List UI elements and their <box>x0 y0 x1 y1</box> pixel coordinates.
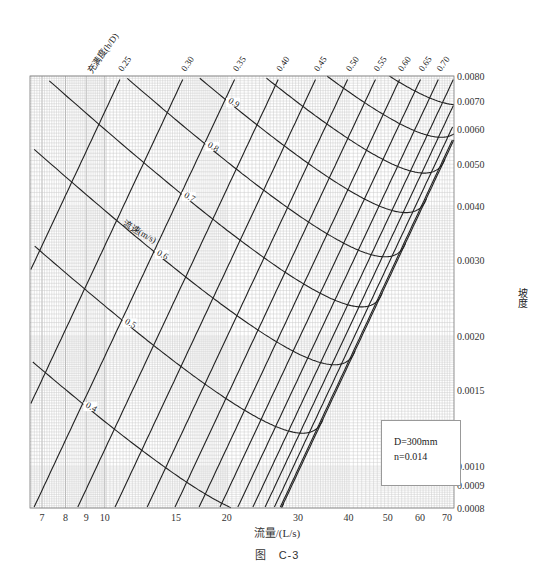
diameter-label: D=300mm <box>394 435 437 449</box>
y-tick-label: 0.0080 <box>457 71 485 82</box>
x-axis-ticks: 7891015203040506070 <box>40 512 453 523</box>
y-tick-label: 0.0040 <box>457 201 485 212</box>
x-tick-label: 50 <box>383 512 393 523</box>
y-tick-label: 0.0030 <box>457 255 485 266</box>
nomograph-chart: 0.250.300.350.400.450.500.550.600.650.70… <box>0 0 554 580</box>
fill-ratio-label: 0.35 <box>231 54 249 73</box>
velocity-label: 0.8 <box>206 140 221 155</box>
fill-ratio-label: 0.55 <box>372 54 390 73</box>
x-axis-label: 流量/(L/s) <box>0 524 554 540</box>
y-tick-label: 0.0070 <box>457 96 485 107</box>
fill-ratio-label: 0.60 <box>396 54 414 73</box>
x-tick-label: 70 <box>442 512 452 523</box>
fill-ratio-label: 0.25 <box>116 54 134 73</box>
fill-ratio-label: 0.65 <box>417 54 435 73</box>
fill-ratio-label: 0.40 <box>274 54 292 73</box>
y-tick-label: 0.0050 <box>457 159 485 170</box>
x-tick-label: 7 <box>40 512 45 523</box>
x-tick-label: 60 <box>415 512 425 523</box>
figure-caption: 图 C-3 <box>0 546 554 562</box>
x-tick-label: 30 <box>293 512 303 523</box>
y-tick-label: 0.0015 <box>457 385 485 396</box>
y-tick-label: 0.0020 <box>457 331 485 342</box>
velocity-label: 0.7 <box>182 190 197 205</box>
x-tick-label: 20 <box>222 512 232 523</box>
velocity-label: 0.9 <box>227 95 242 110</box>
pipe-spec-box: D=300mm n=0.014 <box>381 420 461 486</box>
x-tick-label: 15 <box>171 512 181 523</box>
x-tick-label: 8 <box>63 512 68 523</box>
x-tick-label: 40 <box>344 512 354 523</box>
y-tick-label: 0.0060 <box>457 124 485 135</box>
fill-ratio-label: 0.70 <box>434 54 452 73</box>
x-tick-label: 9 <box>84 512 89 523</box>
y-axis-ticks: 0.00800.00700.00600.00500.00400.00300.00… <box>457 71 485 514</box>
fill-ratio-label: 0.30 <box>179 54 197 73</box>
y-tick-label: 0.0010 <box>457 461 485 472</box>
fill-ratio-label: 0.45 <box>312 54 330 73</box>
y-tick-label: 0.0009 <box>457 480 485 491</box>
y-axis-label: 坡度 <box>514 288 529 308</box>
roughness-label: n=0.014 <box>394 450 427 464</box>
fill-ratio-label: 0.50 <box>344 54 362 73</box>
fill-ratio-title: 充满度(h/D) <box>85 31 121 75</box>
x-tick-label: 10 <box>100 512 110 523</box>
y-tick-label: 0.0008 <box>457 503 485 514</box>
